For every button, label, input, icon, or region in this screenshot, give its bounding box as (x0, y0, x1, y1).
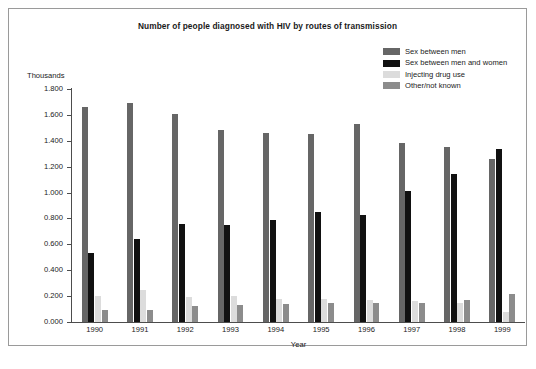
bar-group: 1995 (308, 89, 334, 322)
y-axis-tick-mark (67, 193, 71, 194)
bar (270, 220, 276, 322)
y-axis-tick-label: 0.000 (44, 317, 63, 326)
y-axis-tick-label: 0.600 (44, 239, 63, 248)
x-axis-tick-label: 1997 (403, 325, 420, 334)
bar (179, 224, 185, 322)
bar (308, 134, 314, 322)
bar (172, 114, 178, 322)
chart-title: Number of people diagnosed with HIV by r… (9, 21, 526, 31)
bar (127, 103, 133, 322)
y-axis-units-label: Thousands (27, 71, 65, 80)
plot-area: 1990199119921993199419951996199719981999 (72, 89, 525, 322)
x-axis-tick-label: 1998 (449, 325, 466, 334)
bar (496, 149, 502, 322)
chart-frame: Number of people diagnosed with HIV by r… (8, 8, 527, 346)
y-axis-tick-label: 0.400 (44, 265, 63, 274)
y-axis-tick-mark (67, 218, 71, 219)
bar-group: 1990 (82, 89, 108, 322)
bar (367, 300, 373, 322)
y-axis-tick-mark (67, 244, 71, 245)
bar-group: 1993 (218, 89, 244, 322)
bar (444, 147, 450, 322)
bar (231, 296, 237, 322)
bar-group: 1992 (172, 89, 198, 322)
bar (218, 130, 224, 322)
bar (451, 174, 457, 322)
bar (82, 107, 88, 322)
legend-swatch-icon (383, 48, 400, 55)
legend-item: Injecting drug use (383, 69, 533, 80)
bar (263, 133, 269, 322)
bar (399, 143, 405, 322)
y-axis-tick-label: 1.000 (44, 188, 63, 197)
bar (354, 124, 360, 322)
bar (373, 303, 379, 322)
bar (509, 294, 515, 322)
bar (419, 303, 425, 322)
bar (503, 312, 509, 322)
legend-item: Sex between men (383, 46, 533, 57)
bar (489, 159, 495, 322)
bar (134, 239, 140, 322)
bar-group: 1996 (354, 89, 380, 322)
bar (192, 306, 198, 322)
y-axis-tick-label: 0.200 (44, 291, 63, 300)
y-axis-tick-label: 1.400 (44, 136, 63, 145)
y-axis-tick-label: 0.800 (44, 213, 63, 222)
bar (276, 299, 282, 322)
y-axis-tick-mark (67, 296, 71, 297)
x-axis-tick-label: 1992 (177, 325, 194, 334)
legend-label: Injecting drug use (405, 71, 465, 79)
x-axis-tick-label: 1996 (358, 325, 375, 334)
bar (315, 212, 321, 322)
x-axis-tick-label: 1993 (222, 325, 239, 334)
legend-item: Sex between men and women (383, 57, 533, 68)
x-axis-tick-label: 1995 (313, 325, 330, 334)
bar (186, 297, 192, 322)
legend-swatch-icon (383, 60, 400, 67)
x-axis-tick-label: 1990 (86, 325, 103, 334)
y-axis-tick-mark (67, 141, 71, 142)
bar (360, 215, 366, 322)
y-axis-tick-label: 1.800 (44, 84, 63, 93)
bar (95, 296, 101, 322)
bar-group: 1997 (399, 89, 425, 322)
y-axis-tick-label: 1.200 (44, 162, 63, 171)
bar (102, 310, 108, 322)
bar (405, 191, 411, 322)
x-axis-title: Year (72, 340, 525, 349)
legend-swatch-icon (383, 71, 400, 78)
bar (140, 290, 146, 322)
y-axis-tick-mark (67, 322, 71, 323)
bar (321, 299, 327, 322)
y-axis-tick-mark (67, 167, 71, 168)
legend-label: Sex between men and women (405, 59, 507, 67)
bar (328, 303, 334, 322)
bar-group: 1991 (127, 89, 153, 322)
bar (412, 301, 418, 322)
x-axis-tick-label: 1994 (267, 325, 284, 334)
y-axis-tick-mark (67, 115, 71, 116)
bar (147, 310, 153, 322)
chart-legend: Sex between menSex between men and women… (383, 46, 533, 92)
bar (224, 225, 230, 322)
x-axis-line (71, 322, 525, 323)
bar (237, 305, 243, 322)
y-axis-tick-mark (67, 89, 71, 90)
legend-label: Sex between men (405, 48, 466, 56)
y-axis-tick-label: 1.600 (44, 110, 63, 119)
bar (283, 304, 289, 322)
bar (464, 300, 470, 322)
bar-group: 1994 (263, 89, 289, 322)
bar (457, 303, 463, 322)
y-axis-tick-mark (67, 270, 71, 271)
x-axis-tick-label: 1999 (494, 325, 511, 334)
bar-group: 1998 (444, 89, 470, 322)
bar (88, 253, 94, 322)
bar-group: 1999 (489, 89, 515, 322)
x-axis-tick-label: 1991 (131, 325, 148, 334)
